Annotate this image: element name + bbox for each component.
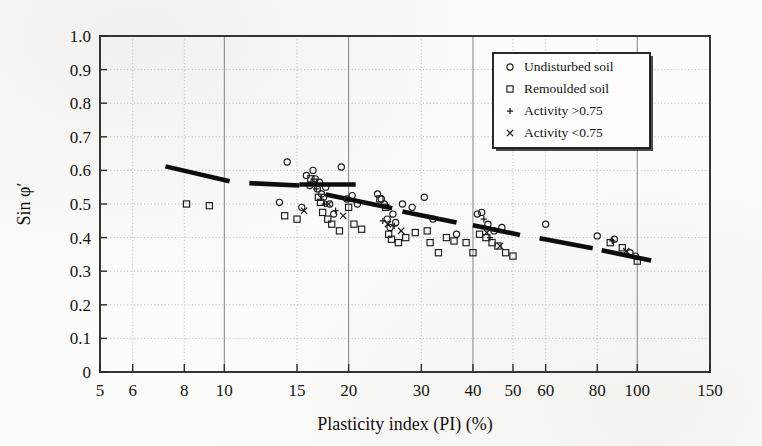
data-point-square — [476, 231, 482, 237]
data-point-square — [320, 209, 326, 215]
trend-line-segment — [402, 211, 456, 222]
data-point-square — [395, 240, 401, 246]
x-axis-title: Plasticity index (PI) (%) — [317, 414, 492, 435]
data-point-square — [412, 229, 418, 235]
y-tick-label: 0.4 — [70, 229, 92, 248]
data-point-plus — [391, 223, 397, 229]
x-tick-label: 40 — [464, 381, 481, 400]
trend-line-segment — [165, 166, 229, 181]
data-point-circle — [421, 194, 427, 200]
x-axis: 5681015203040506080100150 — [96, 364, 723, 400]
data-point-square — [424, 228, 430, 234]
data-point-circle — [338, 164, 344, 170]
data-point-square — [463, 240, 469, 246]
y-tick-label: 0.8 — [70, 94, 91, 113]
trend-line-segment — [540, 238, 593, 248]
x-tick-label: 100 — [625, 381, 651, 400]
y-tick-label: 0 — [83, 363, 92, 382]
data-point-plus — [380, 218, 386, 224]
data-point-circle — [276, 199, 282, 205]
x-tick-label: 5 — [96, 381, 105, 400]
data-point-square — [351, 221, 357, 227]
legend: Undisturbed soilRemoulded soilActivity >… — [493, 53, 653, 151]
data-point-square — [427, 240, 433, 246]
x-tick-label: 60 — [537, 381, 554, 400]
data-point-square — [451, 238, 457, 244]
trend-line-segment — [249, 183, 299, 185]
legend-label-cross: Activity <0.75 — [524, 125, 603, 140]
data-point-circle — [393, 219, 399, 225]
data-point-circle — [453, 231, 459, 237]
series-plus — [313, 186, 615, 244]
x-tick-label: 15 — [289, 381, 306, 400]
x-tick-label: 20 — [340, 381, 357, 400]
data-point-circle — [299, 204, 305, 210]
y-tick-label: 0.5 — [70, 195, 91, 214]
y-tick-label: 0.1 — [70, 329, 91, 348]
data-point-square — [336, 228, 342, 234]
x-tick-label: 8 — [180, 381, 189, 400]
data-point-square — [206, 203, 212, 209]
data-point-square — [435, 250, 441, 256]
y-axis: 00.10.20.30.40.50.60.70.80.91.0 — [70, 27, 107, 382]
sin-phi-vs-plasticity-index-chart: 00.10.20.30.40.50.60.70.80.91.0568101520… — [0, 0, 762, 446]
data-point-square — [503, 250, 509, 256]
series-square — [183, 176, 640, 265]
legend-label-square: Remoulded soil — [524, 81, 609, 96]
legend-label-circle: Undisturbed soil — [524, 59, 614, 74]
data-point-circle — [284, 159, 290, 165]
data-point-circle — [399, 201, 405, 207]
data-point-circle — [409, 204, 415, 210]
x-tick-label: 80 — [589, 381, 606, 400]
x-tick-label: 6 — [128, 381, 137, 400]
y-tick-label: 0.6 — [70, 161, 91, 180]
x-tick-label: 30 — [413, 381, 430, 400]
data-point-square — [282, 213, 288, 219]
trend-line — [165, 166, 651, 260]
data-point-cross — [497, 243, 503, 249]
x-tick-label: 50 — [504, 381, 521, 400]
x-tick-label: 10 — [216, 381, 233, 400]
data-point-circle — [543, 221, 549, 227]
data-point-cross — [340, 213, 346, 219]
legend-label-plus: Activity >0.75 — [524, 103, 603, 118]
data-point-square — [359, 226, 365, 232]
chart-page: 00.10.20.30.40.50.60.70.80.91.0568101520… — [0, 0, 762, 446]
data-point-plus — [333, 208, 339, 214]
y-tick-label: 0.3 — [70, 262, 91, 281]
data-point-cross — [398, 228, 404, 234]
y-tick-label: 0.9 — [70, 61, 91, 80]
data-point-circle — [390, 211, 396, 217]
y-tick-label: 0.7 — [70, 128, 92, 147]
x-tick-label: 150 — [697, 381, 723, 400]
y-tick-label: 0.2 — [70, 296, 91, 315]
y-tick-label: 1.0 — [70, 27, 91, 46]
data-point-plus — [609, 238, 615, 244]
y-axis-title: Sin φ′ — [14, 183, 34, 226]
